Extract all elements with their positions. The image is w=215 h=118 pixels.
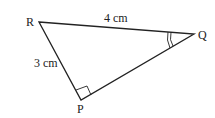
angle-arc-inner	[170, 33, 173, 47]
vertex-label-r: R	[26, 15, 34, 29]
side-label-rq: 4 cm	[104, 11, 128, 25]
triangle-diagram: R Q P 4 cm 3 cm	[0, 0, 215, 118]
vertex-label-q: Q	[198, 28, 207, 42]
vertex-label-p: P	[77, 102, 84, 116]
angle-arc-outer	[167, 32, 170, 48]
side-label-rp: 3 cm	[34, 56, 58, 70]
